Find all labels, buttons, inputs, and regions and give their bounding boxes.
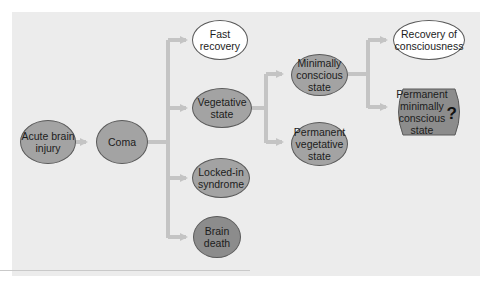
node-label: Locked-in syndrome bbox=[198, 166, 244, 190]
node-label: Acute brain injury bbox=[21, 130, 74, 154]
node-label: Permanent vegetative state bbox=[294, 126, 345, 162]
node-label: Coma bbox=[108, 136, 136, 148]
node-label: Recovery of consciousness bbox=[395, 28, 464, 52]
node-brain-death: Brain death bbox=[193, 216, 241, 258]
node-label: Permanent minimally conscious state bbox=[396, 88, 447, 136]
node-acute-brain-injury: Acute brain injury bbox=[20, 120, 76, 164]
node-locked-in-syndrome: Locked-in syndrome bbox=[192, 158, 250, 198]
node-permanent-minimally-conscious-state: Permanent minimally conscious state ? bbox=[393, 88, 465, 136]
node-label: Minimally conscious state bbox=[296, 57, 343, 93]
node-coma: Coma bbox=[96, 120, 148, 164]
node-vegetative-state: Vegetative state bbox=[192, 88, 252, 128]
node-fast-recovery: Fast recovery bbox=[192, 20, 248, 60]
node-minimally-conscious-state: Minimally conscious state bbox=[291, 54, 348, 96]
node-label: Brain death bbox=[204, 225, 230, 249]
node-label: Fast recovery bbox=[200, 28, 240, 52]
node-recovery-of-consciousness: Recovery of consciousness bbox=[393, 20, 465, 60]
node-label: Vegetative state bbox=[197, 96, 246, 120]
question-mark-icon: ? bbox=[447, 108, 457, 120]
node-permanent-vegetative-state: Permanent vegetative state bbox=[291, 122, 348, 166]
